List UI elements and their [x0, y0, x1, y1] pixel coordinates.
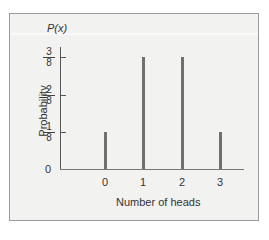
x-tick-label-2: 2 — [175, 176, 189, 188]
bar-3-heads — [219, 132, 222, 169]
y-tick-label-0: 0 — [45, 163, 51, 175]
y-tick-label-1-8: 1 8 — [43, 122, 55, 143]
x-tick-label-3: 3 — [213, 176, 227, 188]
y-axis-line — [60, 47, 61, 170]
y-tick-1-8 — [61, 132, 66, 133]
x-tick-label-0: 0 — [98, 176, 112, 188]
x-tick-label-1: 1 — [136, 176, 150, 188]
bar-1-heads — [142, 57, 145, 169]
bar-0-heads — [104, 132, 107, 169]
bar-2-heads — [181, 57, 184, 169]
y-tick-2-8 — [61, 95, 66, 96]
x-axis-line — [60, 169, 244, 170]
y-axis-symbol: P(x) — [47, 22, 67, 34]
y-tick-3-8 — [61, 57, 66, 58]
y-tick-label-3-8: 3 8 — [43, 47, 55, 68]
y-tick-label-2-8: 2 8 — [43, 85, 55, 106]
x-axis-title: Number of heads — [116, 196, 200, 208]
